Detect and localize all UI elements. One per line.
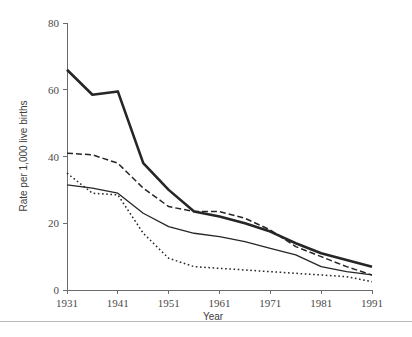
y-axis: 020406080 [48, 17, 67, 296]
y-tick-label: 80 [48, 17, 60, 29]
y-tick-label: 0 [54, 284, 60, 296]
series-dotted [67, 173, 372, 281]
y-tick-label: 40 [48, 151, 60, 163]
series-dashed [67, 153, 372, 275]
x-tick-label: 1971 [259, 297, 281, 309]
x-axis: 1931194119511961197119811991 [56, 290, 383, 309]
x-tick-label: 1941 [107, 297, 129, 309]
series-layer [67, 70, 372, 282]
chart-figure: 020406080 1931194119511961197119811991 Y… [0, 0, 412, 337]
x-tick-label: 1981 [310, 297, 332, 309]
y-tick-label: 20 [48, 217, 60, 229]
x-tick-label: 1991 [361, 297, 383, 309]
y-tick-label: 60 [48, 84, 60, 96]
x-tick-label: 1961 [209, 297, 231, 309]
line-chart: 020406080 1931194119511961197119811991 Y… [0, 0, 412, 337]
x-tick-label: 1951 [158, 297, 180, 309]
series-thin-solid [67, 185, 372, 275]
footer-divider [0, 321, 412, 322]
y-axis-title: Rate per 1,000 live births [18, 100, 29, 211]
x-tick-label: 1931 [56, 297, 78, 309]
